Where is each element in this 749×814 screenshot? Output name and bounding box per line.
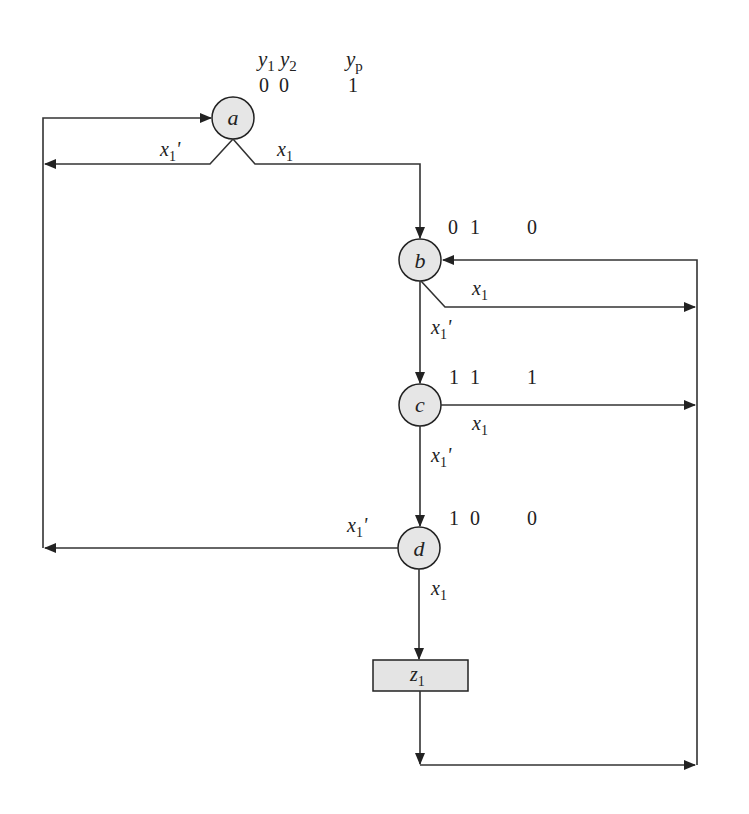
b-y1: 0 [448, 216, 458, 238]
state-diagram: y1 y2 yp 0 0 1 a x1' x1 0 1 0 b x1 x1' 1… [0, 0, 749, 814]
c-yp: 1 [527, 366, 537, 388]
state-c[interactable]: c [399, 384, 441, 426]
edge-right-return-to-b [443, 260, 697, 765]
label-c-x1: x1 [471, 412, 488, 438]
header-yp: yp [344, 47, 363, 74]
state-b-code: 0 1 0 [448, 216, 537, 238]
label-d-x1not: x1' [346, 514, 368, 540]
state-b[interactable]: b [399, 239, 441, 281]
d-y2: 0 [470, 507, 480, 529]
d-y1: 1 [449, 507, 459, 529]
a-y1: 0 [259, 74, 269, 96]
edge-b-x1 [421, 281, 695, 307]
label-a-x1not: x1' [159, 138, 181, 164]
state-d[interactable]: d [398, 527, 440, 569]
a-yp: 1 [348, 74, 358, 96]
edge-left-return-to-a [43, 118, 211, 548]
state-d-label: d [414, 536, 426, 561]
edge-a-x1-to-b [233, 139, 420, 238]
label-c-x1not: x1' [430, 444, 452, 470]
state-d-code: 1 0 0 [449, 507, 537, 529]
c-y1: 1 [449, 366, 459, 388]
label-a-x1: x1 [276, 138, 293, 164]
edge-a-x1not [45, 139, 233, 164]
c-y2: 1 [470, 366, 480, 388]
d-yp: 0 [527, 507, 537, 529]
a-y2: 0 [279, 74, 289, 96]
state-a-label: a [228, 105, 239, 130]
header-y2: y2 [278, 47, 297, 74]
header-y1: y1 [256, 47, 275, 74]
b-y2: 1 [470, 216, 480, 238]
state-b-label: b [415, 248, 426, 273]
label-d-x1: x1 [430, 577, 447, 603]
state-a[interactable]: a [212, 97, 254, 139]
b-yp: 0 [527, 216, 537, 238]
output-z1[interactable]: z1 [373, 660, 468, 691]
label-b-x1: x1 [471, 277, 488, 303]
state-a-code: 0 0 1 [259, 74, 358, 96]
state-c-code: 1 1 1 [449, 366, 537, 388]
label-b-x1not: x1' [430, 316, 452, 342]
column-header: y1 y2 yp [256, 47, 363, 74]
state-c-label: c [415, 392, 425, 417]
